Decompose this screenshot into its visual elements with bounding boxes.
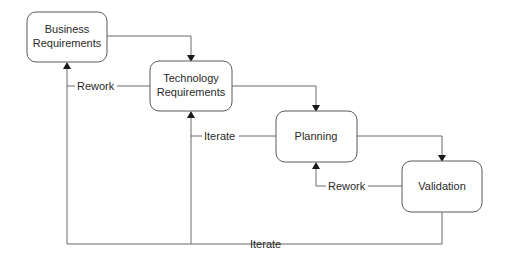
- node-planning: Planning: [276, 111, 357, 162]
- node-technology-requirements: Technology Requirements: [150, 61, 232, 111]
- process-flow-diagram: Rework Iterate Rework Iterate Business R…: [0, 0, 507, 258]
- connector-technology-to-planning: [232, 86, 320, 112]
- node-label: Requirements: [157, 86, 226, 98]
- edge-label-rework-2: Rework: [326, 180, 368, 192]
- node-label: Validation: [418, 180, 466, 192]
- node-label: Planning: [295, 130, 338, 142]
- arrow-up-icon: [63, 62, 71, 69]
- connector-business-to-technology: [107, 36, 195, 62]
- node-label: Requirements: [33, 37, 102, 49]
- rework-label: Rework: [77, 80, 115, 92]
- connector-validation-iterate-to-start: [67, 86, 442, 244]
- rework-label: Rework: [328, 180, 366, 192]
- node-label: Business: [45, 23, 90, 35]
- node-business-requirements: Business Requirements: [27, 12, 107, 62]
- arrow-up-icon: [312, 162, 320, 169]
- edge-label-rework-1: Rework: [75, 80, 117, 92]
- iterate-label: Iterate: [204, 130, 235, 142]
- arrow-up-icon: [187, 111, 195, 118]
- node-validation: Validation: [402, 161, 482, 212]
- node-label: Technology: [163, 72, 219, 84]
- edge-label-iterate-2: Iterate: [250, 238, 281, 250]
- connector-planning-to-validation: [357, 136, 446, 162]
- edge-label-iterate-1: Iterate: [202, 130, 239, 142]
- iterate-label: Iterate: [250, 238, 281, 250]
